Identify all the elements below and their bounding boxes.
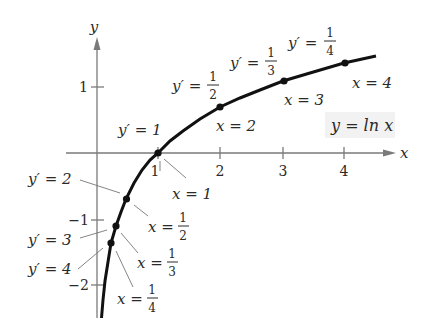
slope-label-third: y′ = xyxy=(229,54,259,72)
point-x-3 xyxy=(280,77,287,84)
x-label-1: x = 1 xyxy=(172,185,212,203)
x-label-4: x = 4 xyxy=(352,74,392,92)
leader-yp3 xyxy=(80,230,107,238)
y-tick-label-1: 1 xyxy=(79,79,88,95)
point-x-third xyxy=(112,222,119,229)
x-tick-label-2: 2 xyxy=(216,163,225,179)
x-half-den: 2 xyxy=(179,229,187,243)
leader-yp2 xyxy=(80,180,120,193)
x-label-3: x = 3 xyxy=(284,91,324,109)
slope-label-half: y′ = xyxy=(171,77,201,95)
y-axis-label: y xyxy=(89,18,99,36)
point-x-quarter xyxy=(107,239,114,246)
slope-half-den: 2 xyxy=(209,88,217,102)
slope-label-3: y′ = 3 xyxy=(27,231,72,249)
leader-x-half xyxy=(134,205,148,216)
slope-quarter-num: 1 xyxy=(326,26,334,40)
slope-label-quarter: y′ = xyxy=(287,34,317,52)
x-label-half: x = xyxy=(148,218,174,236)
x-axis-arrow-icon xyxy=(383,150,396,157)
x-half-num: 1 xyxy=(179,211,187,225)
leader-yp4 xyxy=(78,248,103,269)
leader-x-quarter xyxy=(116,251,133,287)
x-label-third: x = xyxy=(137,254,163,272)
slope-quarter-den: 4 xyxy=(326,44,334,58)
slope-label-4: y′ = 4 xyxy=(27,260,72,278)
diagram-canvas: y x 1 2 3 4 1 −1 −2 xyxy=(0,0,425,332)
x-tick-label-1: 1 xyxy=(151,163,160,179)
slope-label-2: y′ = 2 xyxy=(27,170,72,188)
x-tick-label-4: 4 xyxy=(340,163,349,179)
x-third-num: 1 xyxy=(168,247,176,261)
x-quarter-num: 1 xyxy=(148,283,156,297)
point-x-4 xyxy=(341,59,348,66)
x-label-2: x = 2 xyxy=(216,117,256,135)
slope-third-num: 1 xyxy=(267,46,275,60)
slope-half-num: 1 xyxy=(209,70,217,84)
point-x-2 xyxy=(216,103,223,110)
y-tick-label-m2: −2 xyxy=(68,277,89,293)
leader-x-third xyxy=(121,233,138,253)
slope-label-1: y′ = 1 xyxy=(117,121,162,139)
ln-curve xyxy=(102,56,377,318)
point-x-1 xyxy=(154,149,161,156)
y-axis-arrow-icon xyxy=(94,37,101,50)
x-quarter-den: 4 xyxy=(148,301,156,315)
point-x-half xyxy=(123,195,130,202)
y-tick-label-m1: −1 xyxy=(68,212,89,228)
x-label-quarter: x = xyxy=(117,290,143,308)
slope-third-den: 3 xyxy=(267,64,275,78)
x-tick-label-3: 3 xyxy=(279,163,288,179)
function-label: y = ln x xyxy=(330,116,393,135)
x-third-den: 3 xyxy=(168,265,176,279)
x-axis-label: x xyxy=(400,144,409,162)
ln-derivative-diagram: y x 1 2 3 4 1 −1 −2 xyxy=(0,0,425,332)
leader-x-1 xyxy=(164,159,186,178)
